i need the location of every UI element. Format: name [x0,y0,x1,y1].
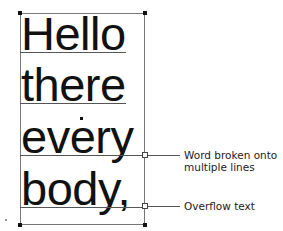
callout-overflow: Overflow text [184,200,255,212]
callout-overflow-line1: Overflow text [184,200,255,212]
baseline-line-4 [20,207,145,208]
callout-word-break: Word broken onto multiple lines [184,149,277,173]
frame-corner-handle-bottom-left[interactable] [18,223,22,227]
frame-corner-handle-top-right[interactable] [143,11,147,15]
baseline-line-2 [20,103,126,104]
callout-leader-word-break [148,155,180,156]
baseline-line-1 [20,52,126,53]
frame-corner-handle-bottom-right[interactable] [143,223,147,227]
text-line-1: Hello [21,10,126,57]
stray-mark [5,219,7,221]
text-line-2: there [21,61,126,108]
text-line-3: every [21,113,133,160]
callout-word-break-line1: Word broken onto [184,149,277,161]
callout-leader-overflow [148,206,180,207]
text-line-4: body, [21,165,130,212]
callout-word-break-line2: multiple lines [184,161,277,173]
baseline-line-3 [20,155,145,156]
